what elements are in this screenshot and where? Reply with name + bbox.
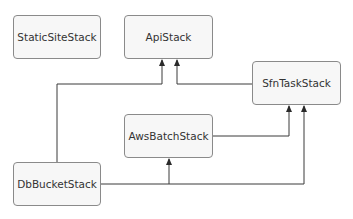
node-label: ApiStack xyxy=(146,31,192,43)
arrowhead-icon xyxy=(174,59,180,66)
node-label: DbBucketStack xyxy=(17,178,97,190)
node-label: StaticSiteStack xyxy=(17,31,96,43)
arrowhead-icon xyxy=(286,105,292,112)
node-label: SfnTaskStack xyxy=(262,77,331,89)
node-aws-batch-stack: AwsBatchStack xyxy=(124,114,213,158)
diagram-canvas: StaticSiteStack ApiStack SfnTaskStack Aw… xyxy=(0,0,353,219)
edge-awsbatch-to-sfntask xyxy=(213,106,289,136)
edge-sfntask-to-api xyxy=(177,60,252,84)
node-sfn-task-stack: SfnTaskStack xyxy=(252,61,341,105)
arrowhead-icon xyxy=(159,59,165,66)
node-api-stack: ApiStack xyxy=(124,15,213,59)
node-db-bucket-stack: DbBucketStack xyxy=(13,162,101,206)
node-label: AwsBatchStack xyxy=(128,130,208,142)
arrowhead-icon xyxy=(301,105,307,112)
arrowhead-icon xyxy=(166,158,172,165)
node-static-site-stack: StaticSiteStack xyxy=(13,15,101,59)
